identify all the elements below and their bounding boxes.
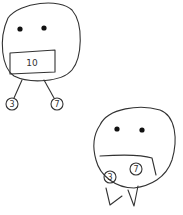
held-node-3-label: 3 xyxy=(107,173,112,182)
child-node-7-label: 7 xyxy=(54,100,59,109)
sketch-canvas: 10 3 7 3 7 xyxy=(0,0,183,215)
monster-1-left-eye xyxy=(17,26,22,31)
monster-1-right-leg xyxy=(44,80,54,98)
monster-figure-2: 3 7 xyxy=(94,107,175,206)
monster-1-head xyxy=(2,3,80,81)
monster-2-left-eye xyxy=(114,126,119,131)
monster-1-left-leg xyxy=(14,80,22,98)
monster-1-right-eye xyxy=(41,25,46,30)
monster-2-right-eye xyxy=(139,127,144,132)
monster-2-head xyxy=(94,107,175,188)
monster-1-mouth-label: 10 xyxy=(26,58,38,68)
monster-2-fang-right xyxy=(128,186,138,206)
monster-2-fang-left xyxy=(106,188,122,205)
child-node-3-label: 3 xyxy=(9,100,14,109)
held-node-7-label: 7 xyxy=(133,165,138,174)
monster-figure-1: 10 3 7 xyxy=(2,3,80,110)
